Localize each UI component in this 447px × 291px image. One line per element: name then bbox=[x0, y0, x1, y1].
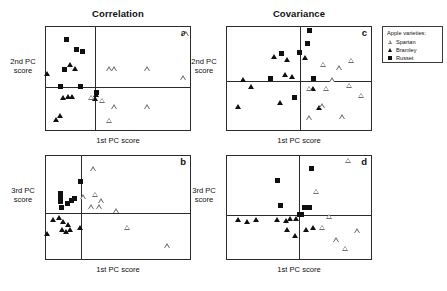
column-title-correlation: Correlation bbox=[45, 8, 191, 19]
open-triangle-icon bbox=[387, 39, 396, 46]
x-axis-label-panel-c: 1st PC score bbox=[226, 136, 372, 145]
legend-entries: SpartanBramleyRusset bbox=[387, 39, 438, 62]
panel-b-vertical-axis bbox=[81, 156, 82, 259]
legend-item-label: Spartan bbox=[396, 39, 416, 46]
y-axis-label-line2: score bbox=[184, 66, 224, 75]
legend-item-bramley: Bramley bbox=[387, 47, 438, 54]
legend-title: Apple varieties: bbox=[387, 30, 438, 36]
x-axis-label-panel-b: 1st PC score bbox=[45, 265, 191, 274]
column-title-covariance: Covariance bbox=[226, 8, 372, 19]
scatter-panel-a: a bbox=[45, 26, 191, 131]
filled-triangle-icon bbox=[387, 47, 396, 54]
panel-label-d: d bbox=[361, 157, 367, 167]
x-axis-label-panel-d: 1st PC score bbox=[226, 265, 372, 274]
panel-label-a: a bbox=[181, 28, 186, 38]
legend-item-spartan: Spartan bbox=[387, 39, 438, 46]
filled-square-icon bbox=[387, 55, 396, 62]
panel-label-b: b bbox=[180, 157, 186, 167]
y-axis-label-line2: score bbox=[3, 195, 43, 204]
scatter-panel-b: b bbox=[45, 155, 191, 260]
y-axis-label-line1: 3rd PC bbox=[184, 186, 224, 195]
legend: Apple varieties: SpartanBramleyRusset bbox=[382, 26, 443, 63]
scatter-panel-d: d bbox=[226, 155, 372, 260]
y-axis-label-line2: score bbox=[184, 195, 224, 204]
y-axis-label-panel-d: 3rd PC score bbox=[184, 186, 224, 205]
y-axis-label-line2: score bbox=[3, 66, 43, 75]
y-axis-label-line1: 3rd PC bbox=[3, 186, 43, 195]
legend-item-label: Bramley bbox=[396, 47, 417, 54]
y-axis-label-panel-c: 2nd PC score bbox=[184, 57, 224, 76]
panel-c-horizontal-axis bbox=[227, 81, 371, 82]
legend-item-label: Russet bbox=[396, 55, 413, 62]
legend-item-russet: Russet bbox=[387, 55, 438, 62]
y-axis-label-line1: 2nd PC bbox=[3, 57, 43, 66]
panel-a-horizontal-axis bbox=[46, 87, 190, 88]
x-axis-label-panel-a: 1st PC score bbox=[45, 136, 191, 145]
panel-label-c: c bbox=[362, 28, 367, 38]
scatter-panel-c: c bbox=[226, 26, 372, 131]
panel-d-vertical-axis bbox=[299, 156, 300, 259]
y-axis-label-panel-a: 2nd PC score bbox=[3, 57, 43, 76]
panel-a-vertical-axis bbox=[95, 27, 96, 130]
y-axis-label-line1: 2nd PC bbox=[184, 57, 224, 66]
y-axis-label-panel-b: 3rd PC score bbox=[3, 186, 43, 205]
panel-c-vertical-axis bbox=[300, 27, 301, 130]
panel-b-horizontal-axis bbox=[46, 213, 190, 214]
pca-scatter-figure: Correlation Covariance 2nd PC score a 1s… bbox=[0, 0, 447, 291]
